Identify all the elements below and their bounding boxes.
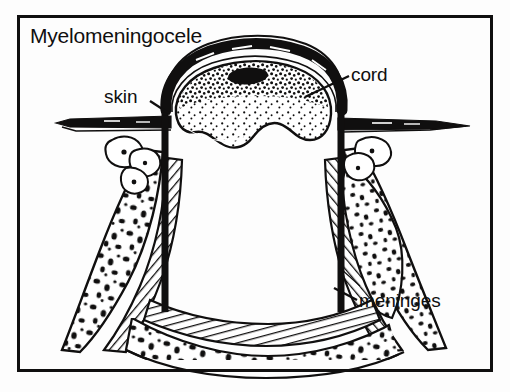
- vertebral-column-group: [62, 137, 446, 378]
- label-skin: skin: [104, 86, 137, 108]
- myelomeningocele-figure: Myelomeningocele skin cord meninges: [0, 0, 510, 392]
- page-title: Myelomeningocele: [30, 24, 202, 48]
- skin-surface-left: [56, 116, 171, 128]
- bony-process-right: [344, 137, 391, 180]
- label-cord: cord: [351, 64, 388, 86]
- illustration-canvas: [0, 0, 510, 392]
- label-meninges: meninges: [359, 290, 441, 312]
- spinal-cord-placode: [176, 61, 331, 147]
